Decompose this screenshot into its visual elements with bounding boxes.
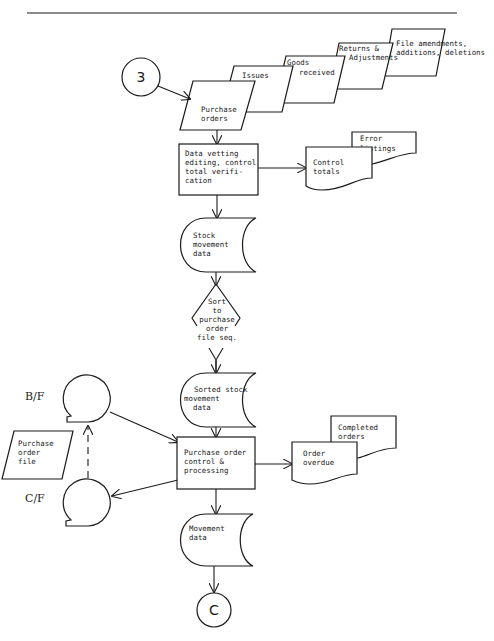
tape-bf: B/F (25, 375, 110, 422)
tape-cf: C/F (25, 479, 110, 526)
svg-text:3: 3 (137, 69, 146, 85)
input-purchase-orders: Purchaseorders (180, 81, 255, 130)
storage-movement-data: Movementdata (181, 514, 254, 566)
svg-text:B/F: B/F (25, 390, 45, 403)
doc-order-overdue: Orderoverdue (292, 442, 357, 484)
storage-sorted-stock-movement-data: Sorted stockmovementdata (181, 373, 257, 427)
svg-text:Controltotals: Controltotals (313, 158, 344, 176)
svg-text:Issues: Issues (242, 71, 269, 80)
input-purchase-order-file: Purchaseorderfile (2, 431, 73, 479)
connector-3: 3 (122, 58, 160, 96)
storage-stock-movement-data: Stockmovementdata (181, 218, 257, 272)
arrow-3-to-po (158, 86, 190, 99)
input-file-amendments: File amendments,additions, deletions (384, 29, 485, 76)
connector-c: C (197, 593, 231, 627)
process-purchase-order-control: Purchase ordercontrol &processing (177, 437, 255, 489)
svg-text:C/F: C/F (25, 492, 45, 505)
svg-text:File amendments,additions, del: File amendments,additions, deletions (396, 39, 485, 57)
process-data-vetting: Data vettingediting, controltotal verifi… (179, 144, 258, 195)
arrow-bf-to-process (110, 412, 178, 442)
sort-operation: Sorttopurchaseorderfile seq. (192, 284, 240, 342)
doc-control-totals: Controltotals (306, 147, 372, 190)
flowchart: File amendments,additions, deletions Ret… (0, 0, 494, 641)
svg-text:C: C (209, 602, 219, 618)
arrow-process-to-cf (112, 480, 178, 496)
